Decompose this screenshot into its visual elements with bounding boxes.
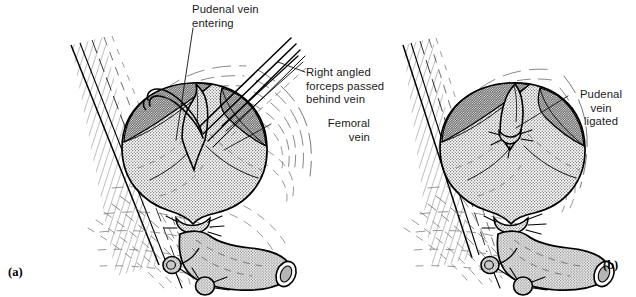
label-femoral-vein: Femoral vein bbox=[272, 117, 370, 144]
label-pudenal-vein-ligated: Pudenal vein ligated bbox=[570, 88, 632, 129]
panel-b-illustration bbox=[392, 30, 618, 295]
label-pudenal-vein-entering: Pudenal vein entering bbox=[192, 3, 304, 30]
label-right-angled-forceps: Right angled forceps passed behind vein bbox=[306, 66, 410, 107]
panel-a-illustration bbox=[60, 30, 311, 295]
illustration-canvas bbox=[0, 0, 636, 297]
distal-vessel-a bbox=[163, 231, 300, 295]
surgical-figure: Pudenal vein entering Right angled force… bbox=[0, 0, 636, 297]
distal-vessel-b bbox=[481, 231, 618, 295]
panel-letter-a: (a) bbox=[8, 265, 23, 280]
panel-letter-b: (b) bbox=[603, 258, 618, 273]
